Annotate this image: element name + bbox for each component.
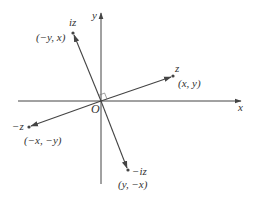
complex-rotation-diagram: x y O z (x, y) iz (−y, x) −z (−x, −y) −i… bbox=[0, 0, 255, 202]
origin-label: O bbox=[91, 102, 100, 116]
label-z-name: z bbox=[174, 62, 180, 74]
label-iz-coords: (−y, x) bbox=[36, 31, 66, 44]
vector-z bbox=[101, 77, 171, 101]
point-z bbox=[171, 74, 174, 77]
label-z-coords: (x, y) bbox=[178, 77, 201, 90]
point-neg-z bbox=[27, 125, 30, 128]
x-axis-label: x bbox=[237, 101, 243, 113]
label-neg-iz-name: −iz bbox=[132, 165, 147, 177]
label-iz-name: iz bbox=[69, 16, 77, 28]
label-neg-z-coords: (−x, −y) bbox=[24, 134, 62, 147]
point-iz bbox=[71, 31, 74, 34]
label-neg-z-name: −z bbox=[12, 120, 24, 132]
point-neg-iz bbox=[126, 168, 129, 171]
y-axis-label: y bbox=[91, 9, 97, 21]
label-neg-iz-coords: (y, −x) bbox=[118, 178, 148, 191]
vector-iz bbox=[74, 35, 101, 101]
vector-neg-iz bbox=[101, 101, 127, 168]
